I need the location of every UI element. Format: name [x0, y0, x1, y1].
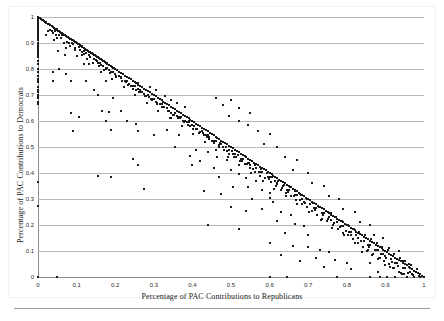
data-point [299, 199, 301, 201]
data-point [335, 216, 337, 218]
data-point [207, 151, 209, 153]
data-point [37, 63, 39, 65]
data-point [241, 160, 243, 162]
x-axis-title: Percentage of PAC Contributions to Repub… [0, 292, 444, 301]
data-point [400, 272, 402, 274]
x-tick-label-0.6: 0.6 [265, 282, 273, 288]
data-point [311, 182, 313, 184]
data-point [316, 214, 318, 216]
x-tick-label-1: 1 [422, 282, 425, 288]
data-point [350, 231, 352, 233]
data-point [402, 260, 404, 262]
data-point [299, 260, 301, 262]
data-point [383, 260, 385, 262]
gridline-y-0.9 [38, 43, 424, 44]
data-point [53, 39, 55, 41]
data-point [369, 276, 371, 278]
data-point [121, 80, 123, 82]
data-point [398, 250, 400, 252]
data-point [397, 265, 399, 267]
data-point [413, 276, 415, 278]
data-point [369, 262, 371, 264]
data-point [323, 266, 325, 268]
data-point [322, 214, 324, 216]
data-point [102, 65, 104, 67]
data-point [110, 176, 112, 178]
data-point [238, 164, 240, 166]
data-point [109, 72, 111, 74]
data-point [58, 68, 60, 70]
data-point [191, 164, 193, 166]
data-point [296, 159, 298, 161]
data-point [45, 34, 47, 36]
data-point [228, 149, 230, 151]
data-point [37, 56, 39, 58]
data-point [286, 276, 288, 278]
data-point [170, 112, 172, 114]
data-point [183, 121, 185, 123]
data-point [215, 149, 217, 151]
data-point [176, 115, 178, 117]
data-point [371, 254, 373, 256]
data-point [359, 221, 361, 223]
data-point [83, 63, 85, 65]
x-tick-label-0.5: 0.5 [227, 282, 235, 288]
data-point [269, 133, 271, 135]
data-point [293, 195, 295, 197]
data-point [309, 203, 311, 205]
data-point [289, 186, 291, 188]
data-point [108, 111, 110, 113]
data-point [226, 159, 228, 161]
data-point [56, 276, 58, 278]
data-point [184, 106, 186, 108]
data-point [83, 53, 85, 55]
data-point [380, 253, 382, 255]
data-point [155, 89, 157, 91]
data-point [51, 30, 53, 32]
data-point [199, 131, 201, 133]
data-point [247, 124, 249, 126]
data-point [170, 99, 172, 101]
gridline-y-0 [38, 277, 424, 278]
data-point [312, 202, 314, 204]
data-point [64, 54, 66, 56]
data-point [290, 214, 292, 216]
data-point [123, 86, 125, 88]
data-point [195, 149, 197, 151]
data-point [60, 37, 62, 39]
data-point [336, 276, 338, 278]
data-point [238, 228, 240, 230]
data-point [93, 89, 95, 91]
data-point [144, 95, 146, 97]
data-point [382, 237, 384, 239]
data-point [199, 160, 201, 162]
data-point [347, 234, 349, 236]
data-point [284, 156, 286, 158]
data-point [259, 175, 261, 177]
data-point [350, 268, 352, 270]
data-point [306, 206, 308, 208]
data-point [369, 224, 371, 226]
data-point [261, 208, 263, 210]
data-point [346, 262, 348, 264]
data-point [76, 55, 78, 57]
data-point [292, 245, 294, 247]
data-point [342, 208, 344, 210]
data-point [393, 253, 395, 255]
data-point [81, 54, 83, 56]
data-point [101, 110, 103, 112]
data-point [419, 276, 421, 278]
data-point [390, 258, 392, 260]
data-point [318, 206, 320, 208]
data-point [394, 262, 396, 264]
data-point [37, 81, 39, 83]
data-point [250, 172, 252, 174]
data-point [54, 30, 56, 32]
y-tick-label-0.9: 0.9 [6, 40, 34, 46]
data-point [255, 180, 257, 182]
data-point [216, 156, 218, 158]
x-tick-label-0.9: 0.9 [381, 282, 389, 288]
data-point [339, 226, 341, 228]
data-point [280, 211, 282, 213]
data-point [300, 194, 302, 196]
